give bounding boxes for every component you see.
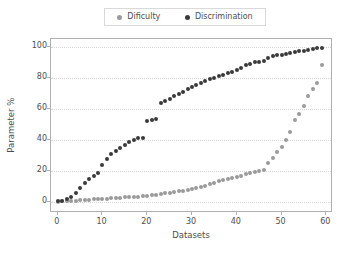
- data-point: [83, 181, 87, 185]
- data-point: [262, 59, 266, 63]
- gridline: [51, 78, 331, 79]
- data-point: [306, 48, 310, 52]
- data-point: [239, 66, 243, 70]
- data-point: [172, 190, 176, 194]
- data-point: [177, 189, 181, 193]
- data-point: [159, 192, 163, 196]
- data-point: [114, 196, 118, 200]
- y-tick-mark: [47, 46, 50, 47]
- data-point: [69, 195, 73, 199]
- data-point: [217, 179, 221, 183]
- data-point: [186, 188, 190, 192]
- data-point: [208, 77, 212, 81]
- data-point: [257, 60, 261, 64]
- y-tick-mark: [47, 170, 50, 171]
- data-point: [248, 171, 252, 175]
- y-axis-title: Parameter %: [4, 38, 18, 212]
- data-point: [208, 182, 212, 186]
- legend-label-discrimination: Discrimination: [195, 13, 253, 21]
- x-axis-title: Datasets: [50, 231, 332, 240]
- data-point: [203, 184, 207, 188]
- data-point: [306, 94, 310, 98]
- data-point: [253, 60, 257, 64]
- x-tick-label: 40: [224, 218, 248, 226]
- data-point: [109, 196, 113, 200]
- data-point: [284, 138, 288, 142]
- data-point: [87, 177, 91, 181]
- data-point: [96, 171, 100, 175]
- data-point: [194, 186, 198, 190]
- data-point: [257, 169, 261, 173]
- data-point: [92, 197, 96, 201]
- circle-marker-icon: [185, 15, 190, 20]
- gridline: [51, 109, 331, 110]
- data-point: [190, 85, 194, 89]
- data-point: [83, 198, 87, 202]
- data-point: [177, 92, 181, 96]
- data-point: [194, 83, 198, 87]
- data-point: [100, 197, 104, 201]
- y-tick-mark: [47, 201, 50, 202]
- y-tick-label: 20: [37, 166, 47, 174]
- data-point: [212, 181, 216, 185]
- data-point: [190, 187, 194, 191]
- data-point: [181, 189, 185, 193]
- x-tick-mark: [101, 212, 102, 215]
- data-point: [271, 54, 275, 58]
- data-point: [78, 186, 82, 190]
- data-point: [127, 195, 131, 199]
- data-point: [302, 49, 306, 53]
- data-point: [226, 177, 230, 181]
- data-point: [132, 195, 136, 199]
- data-point: [315, 46, 319, 50]
- data-point: [297, 112, 301, 116]
- data-point: [87, 198, 91, 202]
- x-tick-mark: [191, 212, 192, 215]
- data-point: [311, 87, 315, 91]
- data-point: [123, 143, 127, 147]
- data-point: [280, 145, 284, 149]
- data-point: [253, 170, 257, 174]
- legend-entry-discrimination[interactable]: Discrimination: [185, 13, 253, 21]
- y-tick-label: 60: [37, 104, 47, 112]
- x-tick-label: 50: [269, 218, 293, 226]
- x-tick-label: 20: [134, 218, 158, 226]
- data-point: [145, 119, 149, 123]
- data-point: [163, 191, 167, 195]
- data-point: [266, 56, 270, 60]
- y-axis-title-text: Parameter %: [7, 97, 16, 152]
- chart-figure: Dificulty Discrimination 020406080100 01…: [0, 0, 345, 256]
- data-point: [288, 51, 292, 55]
- data-point: [114, 149, 118, 153]
- x-tick-mark: [146, 212, 147, 215]
- data-point: [65, 197, 69, 201]
- x-tick-label: 10: [89, 218, 113, 226]
- data-point: [199, 185, 203, 189]
- data-point: [235, 175, 239, 179]
- data-point: [280, 53, 284, 57]
- data-point: [230, 70, 234, 74]
- legend-label-dificulty: Dificulty: [127, 13, 160, 21]
- y-tick-label: 0: [42, 197, 47, 205]
- gridline: [51, 171, 331, 172]
- y-tick-mark: [47, 139, 50, 140]
- data-point: [96, 197, 100, 201]
- x-tick-mark: [236, 212, 237, 215]
- x-tick-mark: [57, 212, 58, 215]
- data-point: [92, 174, 96, 178]
- data-point: [159, 101, 163, 105]
- data-point: [123, 195, 127, 199]
- legend-entry-dificulty[interactable]: Dificulty: [117, 13, 160, 21]
- data-point: [248, 62, 252, 66]
- data-point: [293, 118, 297, 122]
- data-point: [266, 161, 270, 165]
- data-point: [168, 191, 172, 195]
- data-point: [60, 199, 64, 203]
- data-point: [118, 196, 122, 200]
- data-point: [69, 199, 73, 203]
- data-point: [74, 191, 78, 195]
- gridline: [51, 47, 331, 48]
- data-point: [105, 157, 109, 161]
- data-point: [141, 194, 145, 198]
- data-point: [172, 94, 176, 98]
